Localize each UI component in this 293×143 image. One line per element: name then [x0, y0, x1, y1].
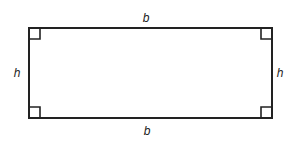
label-right-height: h: [277, 66, 284, 80]
label-bottom-base: b: [144, 124, 151, 138]
right-angle-marker-bottom-left: [29, 107, 40, 118]
label-left-height: h: [14, 66, 21, 80]
label-top-base: b: [143, 11, 150, 25]
right-angle-marker-top-right: [261, 28, 272, 39]
right-angle-marker-bottom-right: [261, 107, 272, 118]
rectangle-diagram: b b h h: [0, 0, 293, 143]
right-angle-marker-top-left: [29, 28, 40, 39]
rectangle-outline: [29, 28, 272, 118]
